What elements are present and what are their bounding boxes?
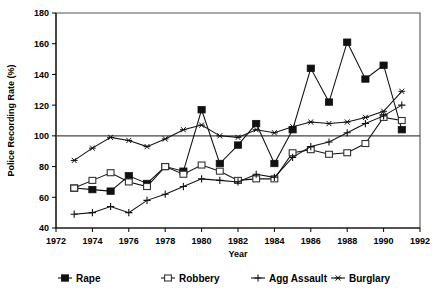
- legend-label: Burglary: [349, 273, 391, 284]
- x-tick-label: 1984: [264, 236, 284, 246]
- series-rape: [71, 39, 406, 194]
- x-tick-label: 1972: [46, 236, 66, 246]
- y-tick-label: 180: [34, 8, 49, 18]
- x-tick-label: 1982: [228, 236, 248, 246]
- legend-label: Rape: [76, 273, 101, 284]
- series-agg-assault: [71, 102, 406, 218]
- y-tick-label: 120: [34, 101, 49, 111]
- legend-label: Agg Assault: [269, 273, 328, 284]
- series-burglary: [71, 89, 405, 163]
- y-tick-label: 140: [34, 70, 49, 80]
- legend-item-burglary[interactable]: Burglary: [331, 273, 391, 284]
- x-tick-label: 1990: [374, 236, 394, 246]
- x-tick-label: 1978: [155, 236, 175, 246]
- x-axis: 1972197419761978198019821984198619881990…: [46, 228, 430, 246]
- legend-item-rape[interactable]: Rape: [58, 273, 101, 284]
- legend-item-agg-assault[interactable]: Agg Assault: [251, 273, 328, 284]
- legend-item-robbery[interactable]: Robbery: [161, 273, 220, 284]
- line-chart: 406080100120140160180 197219741976197819…: [0, 0, 444, 297]
- y-tick-label: 100: [34, 131, 49, 141]
- x-axis-title: Year: [228, 249, 248, 259]
- x-tick-label: 1988: [337, 236, 357, 246]
- x-tick-label: 1974: [82, 236, 102, 246]
- y-tick-label: 160: [34, 39, 49, 49]
- x-tick-label: 1992: [410, 236, 430, 246]
- chart-legend: RapeRobberyAgg AssaultBurglary: [58, 273, 391, 284]
- x-tick-label: 1980: [192, 236, 212, 246]
- y-tick-label: 40: [39, 223, 49, 233]
- y-axis: 406080100120140160180: [34, 8, 56, 233]
- chart-container: 406080100120140160180 197219741976197819…: [0, 0, 444, 297]
- y-tick-label: 60: [39, 193, 49, 203]
- y-axis-title: Police Recording Rate (%): [6, 64, 16, 176]
- x-tick-label: 1986: [301, 236, 321, 246]
- y-tick-label: 80: [39, 162, 49, 172]
- data-series-group: [71, 39, 406, 218]
- legend-label: Robbery: [179, 273, 220, 284]
- x-tick-label: 1976: [119, 236, 139, 246]
